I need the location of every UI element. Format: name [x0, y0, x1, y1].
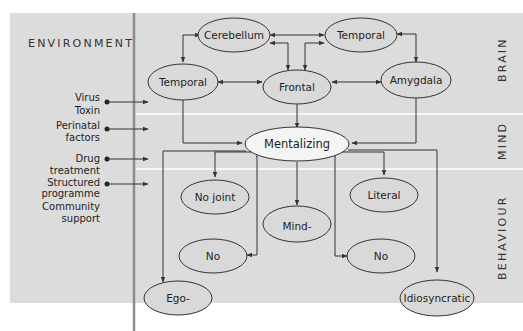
svg-text:No joint: No joint [195, 191, 236, 203]
node-temporal-top: Temporal [325, 18, 397, 52]
svg-text:Community: Community [42, 201, 100, 212]
svg-text:treatment: treatment [50, 165, 100, 176]
environment-title: ENVIRONMENT [28, 37, 134, 50]
node-idiosyncratic: Idiosyncratic [400, 280, 474, 316]
svg-text:Virus: Virus [75, 92, 100, 103]
svg-text:Drug: Drug [76, 153, 101, 164]
svg-text:Idiosyncratic: Idiosyncratic [404, 292, 471, 304]
brain-mind-behaviour-diagram: ENVIRONMENT Virus Toxin Perinatal factor… [0, 0, 523, 331]
svg-text:Toxin: Toxin [74, 105, 100, 116]
svg-text:No: No [206, 250, 220, 262]
level-label-brain: BRAIN [496, 37, 509, 82]
svg-text:Mind-: Mind- [282, 220, 311, 232]
svg-text:factors: factors [65, 132, 100, 143]
node-amygdala: Amygdala [381, 62, 451, 98]
node-no-joint: No joint [181, 180, 249, 214]
node-cerebellum: Cerebellum [198, 18, 270, 52]
node-no-right: No [347, 239, 415, 273]
svg-text:Literal: Literal [367, 189, 400, 201]
level-label-mind: MIND [496, 122, 509, 160]
svg-text:Ego-: Ego- [166, 292, 190, 304]
node-frontal: Frontal [263, 70, 331, 104]
level-label-behaviour: BEHAVIOUR [496, 195, 509, 280]
svg-text:programme: programme [41, 188, 100, 199]
svg-text:Cerebellum: Cerebellum [204, 29, 264, 41]
svg-text:Temporal: Temporal [158, 76, 207, 88]
svg-text:No: No [374, 250, 388, 262]
svg-text:Frontal: Frontal [279, 81, 315, 93]
node-temporal-left: Temporal [148, 64, 218, 100]
svg-text:Mentalizing: Mentalizing [264, 137, 330, 151]
node-mentalizing: Mentalizing [245, 127, 349, 161]
svg-text:Structured: Structured [47, 177, 100, 188]
svg-text:support: support [62, 213, 100, 224]
node-no-left: No [179, 239, 247, 273]
svg-text:Amygdala: Amygdala [390, 74, 443, 86]
node-mind: Mind- [263, 206, 331, 242]
node-ego: Ego- [144, 281, 212, 315]
node-literal: Literal [350, 178, 418, 212]
svg-text:Perinatal: Perinatal [56, 120, 100, 131]
svg-text:Temporal: Temporal [336, 29, 385, 41]
